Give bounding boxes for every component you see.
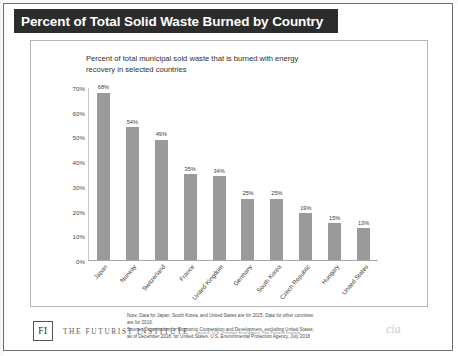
plot-area: 0%10%20%30%40%50%60%70% 68%54%49%35%34%2… bbox=[88, 88, 378, 261]
page-title: Percent of Total Solid Waste Burned by C… bbox=[14, 14, 323, 29]
y-tick-label: 70% bbox=[73, 85, 85, 92]
y-tick-label: 10% bbox=[73, 233, 85, 240]
logo-text: FI bbox=[38, 326, 47, 336]
bar[interactable]: 25% bbox=[241, 199, 254, 260]
bar[interactable]: 19% bbox=[299, 213, 312, 260]
bar-series: 68%54%49%35%34%25%25%19%15%13% bbox=[89, 88, 378, 260]
bar[interactable]: 68% bbox=[97, 93, 110, 260]
bar[interactable]: 34% bbox=[213, 176, 226, 260]
chart-subtitle: Percent of total municipal sold waste th… bbox=[86, 53, 376, 75]
y-tick-label: 50% bbox=[73, 134, 85, 141]
bar-slot: 54% bbox=[118, 88, 147, 260]
bar-value-label: 54% bbox=[127, 119, 138, 125]
x-label-slot: Switzerland bbox=[147, 263, 176, 305]
bar-value-label: 13% bbox=[358, 220, 369, 226]
bar-slot: 68% bbox=[89, 88, 118, 260]
x-axis-line bbox=[88, 260, 378, 261]
y-tick-label: 20% bbox=[73, 208, 85, 215]
x-label-slot: Japan bbox=[89, 263, 118, 305]
bar-slot: 13% bbox=[349, 88, 378, 260]
bar-slot: 49% bbox=[147, 88, 176, 260]
bar[interactable]: 35% bbox=[184, 174, 197, 260]
slide: Percent of Total Solid Waste Burned by C… bbox=[0, 0, 458, 356]
bar[interactable]: 25% bbox=[270, 199, 283, 260]
footnote-line: Note: Data for Japan, South Korea, and U… bbox=[127, 313, 447, 320]
y-tick-label: 40% bbox=[73, 159, 85, 166]
chart-subtitle-line-2: recovery in selected countries bbox=[86, 64, 376, 75]
bar-slot: 25% bbox=[262, 88, 291, 260]
x-label-slot: Czech Republic bbox=[291, 263, 320, 305]
x-tick-label: Hungary bbox=[320, 263, 340, 285]
x-axis-labels: JapanNorwaySwitzerlandFranceUnited Kingd… bbox=[89, 263, 378, 305]
x-label-slot: United States bbox=[349, 263, 378, 305]
x-tick-label: France bbox=[178, 263, 196, 282]
bar-value-label: 34% bbox=[213, 168, 224, 174]
slide-title-bar: Percent of Total Solid Waste Burned by C… bbox=[14, 9, 338, 33]
bar-slot: 19% bbox=[291, 88, 320, 260]
bar[interactable]: 15% bbox=[328, 223, 341, 260]
bar-value-label: 25% bbox=[242, 190, 253, 196]
y-tick-label: 30% bbox=[73, 183, 85, 190]
bar[interactable]: 13% bbox=[357, 228, 370, 260]
cia-watermark: cia bbox=[386, 322, 401, 337]
bar[interactable]: 49% bbox=[155, 140, 168, 260]
chart-subtitle-line-1: Percent of total municipal sold waste th… bbox=[86, 53, 376, 64]
x-tick-label: Germany bbox=[232, 263, 254, 287]
bar-value-label: 15% bbox=[329, 215, 340, 221]
x-tick-label: Norway bbox=[119, 263, 138, 284]
bar-slot: 34% bbox=[205, 88, 234, 260]
bar-value-label: 19% bbox=[300, 205, 311, 211]
y-tick-label: 60% bbox=[73, 109, 85, 116]
footer-source: Source: U.S. Prestige Economics, The Fut… bbox=[196, 330, 301, 335]
bar-value-label: 49% bbox=[156, 131, 167, 137]
bar-slot: 15% bbox=[320, 88, 349, 260]
bar-slot: 35% bbox=[176, 88, 205, 260]
x-tick-label: Japan bbox=[93, 263, 109, 280]
bar-value-label: 68% bbox=[98, 84, 109, 90]
y-tick-label: 0% bbox=[76, 258, 85, 265]
futurist-institute-logo: FI bbox=[33, 321, 53, 341]
chart-container: Percent of total municipal sold waste th… bbox=[30, 40, 428, 307]
footer-brand: THE FUTURIST INSTITUTE bbox=[63, 327, 189, 336]
bar-slot: 25% bbox=[234, 88, 263, 260]
bar-value-label: 25% bbox=[271, 190, 282, 196]
x-label-slot: United Kingdom bbox=[205, 263, 234, 305]
bar-value-label: 35% bbox=[185, 166, 196, 172]
bar[interactable]: 54% bbox=[126, 127, 139, 260]
